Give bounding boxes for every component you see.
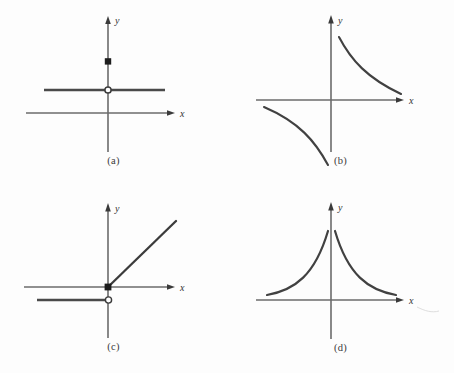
x-axis-label: x: [408, 95, 414, 106]
graph-panel-c: y x (c): [0, 186, 227, 372]
filled-point-marker: [105, 284, 112, 291]
graph-panel-b: y x (b): [227, 0, 454, 186]
x-axis-arrow-icon: [396, 297, 404, 302]
y-axis-arrow-icon: [328, 202, 334, 211]
y-axis-label: y: [114, 15, 120, 26]
x-axis-arrow-icon: [396, 97, 404, 102]
x-axis-arrow-icon: [167, 284, 175, 289]
x-axis-label: x: [179, 282, 185, 293]
y-axis-arrow-icon: [105, 203, 111, 212]
x-axis-label: x: [179, 108, 185, 119]
open-circle-marker: [105, 87, 111, 93]
reciprocal-abs-branch-right: [335, 231, 396, 295]
linear-ray: [108, 221, 176, 287]
x-axis-arrow-icon: [167, 110, 175, 115]
open-circle-marker: [105, 297, 111, 303]
panel-b-caption: (b): [227, 155, 454, 166]
panel-d-caption: (d): [227, 342, 454, 353]
y-axis-label: y: [114, 203, 120, 214]
graph-panel-d: y x (d): [227, 187, 454, 373]
figure-sheet: y x (a) y x (b): [0, 0, 454, 373]
y-axis-label: y: [337, 15, 343, 26]
scan-artifact-mark: [417, 307, 439, 312]
filled-point-marker: [105, 58, 111, 64]
reciprocal-abs-branch-left: [267, 231, 328, 295]
panel-c-caption: (c): [0, 341, 227, 352]
y-axis-arrow-icon: [328, 15, 334, 24]
panel-a-caption: (a): [0, 155, 227, 166]
y-axis-arrow-icon: [105, 16, 111, 24]
y-axis-label: y: [337, 202, 343, 213]
x-axis-label: x: [408, 295, 414, 306]
graph-panel-a: y x (a): [0, 0, 227, 186]
hyperbola-branch-quadrant-1: [339, 37, 401, 94]
